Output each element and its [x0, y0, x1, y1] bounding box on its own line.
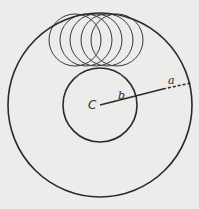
rolling-circle-4 — [81, 14, 133, 66]
radius-b-label: b — [118, 89, 125, 102]
radius-line-solid — [100, 89, 163, 105]
concentric-circles-diagram: C b a — [0, 0, 199, 209]
rolling-circle-3 — [70, 14, 122, 66]
rolling-circle-5 — [91, 14, 143, 66]
rolling-circles-group — [49, 14, 143, 66]
rolling-circle-1 — [49, 14, 101, 66]
center-label: C — [88, 98, 97, 112]
rolling-circle-2 — [60, 14, 112, 66]
radius-a-label: a — [168, 74, 175, 87]
